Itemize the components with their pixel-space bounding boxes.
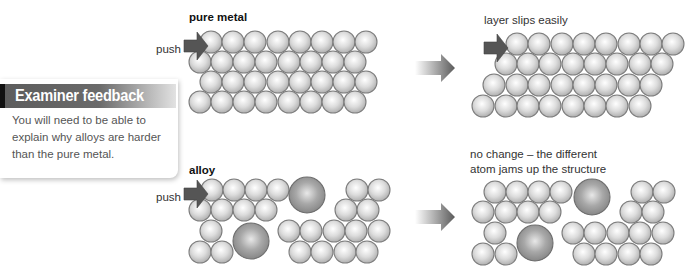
metal-structure-diagram [0, 0, 686, 272]
alloy-lattice [189, 177, 390, 263]
alloy-transition-arrow-icon [415, 203, 455, 231]
pure-metal-transition-arrow-icon [415, 54, 455, 82]
pure-metal-lattice [189, 31, 377, 113]
alloy-jammed-lattice [472, 179, 675, 265]
